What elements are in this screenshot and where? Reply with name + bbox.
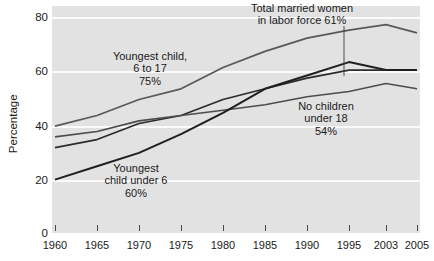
- x-tick-mark-1980: [223, 225, 224, 231]
- x-tick-label-1960: 1960: [33, 240, 77, 251]
- x-tick-label-1980: 1980: [201, 240, 245, 251]
- x-tick-label-1990: 1990: [285, 240, 329, 251]
- x-tick-label-1975: 1975: [159, 240, 203, 251]
- x-tick-mark-2005: [417, 225, 418, 231]
- annotation-youngest-6-to-17: Youngest child, 6 to 17 75%: [98, 50, 202, 87]
- y-tick-label-0: 0: [4, 228, 48, 240]
- x-tick-label-1965: 1965: [75, 240, 119, 251]
- y-axis: 80 60 40 20 0 Percentage: [0, 0, 48, 261]
- x-tick-mark-1990: [307, 225, 308, 231]
- annotation-youngest-child-under-6: Youngest child under 6 60%: [82, 162, 190, 199]
- x-tick-mark-1975: [181, 225, 182, 231]
- x-tick-label-1985: 1985: [243, 240, 287, 251]
- y-tick-label-20: 20: [4, 175, 48, 187]
- y-axis-title: Percentage: [8, 82, 20, 166]
- x-tick-mark-1995: [349, 225, 350, 231]
- annotation-no-children-under-18: No children under 18 54%: [278, 100, 374, 137]
- annotation-total-married-women: Total married women in labor force 61%: [226, 2, 378, 27]
- x-tick-mark-2003: [386, 225, 387, 231]
- x-tick-label-1970: 1970: [117, 240, 161, 251]
- x-tick-mark-1985: [265, 225, 266, 231]
- x-tick-mark-1960: [55, 225, 56, 231]
- y-tick-label-80: 80: [4, 12, 48, 24]
- x-tick-label-2005: 2005: [395, 240, 434, 251]
- x-tick-mark-1970: [139, 225, 140, 231]
- x-tick-mark-1965: [97, 225, 98, 231]
- y-tick-label-60: 60: [4, 66, 48, 78]
